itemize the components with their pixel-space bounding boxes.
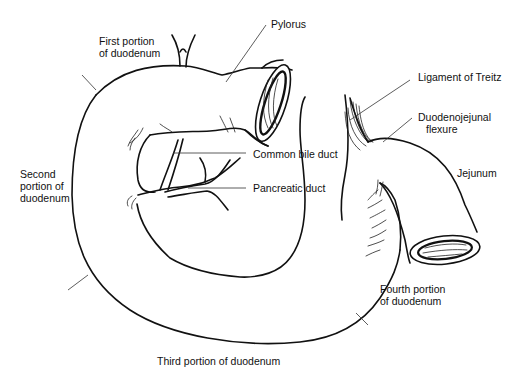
label-second-portion: Second portion of duodenum <box>20 168 70 204</box>
leader-first-portion <box>82 75 96 90</box>
leader-ligament <box>350 80 410 120</box>
vessel <box>172 35 180 66</box>
label-second-line2: portion of <box>20 180 70 192</box>
duodenum-outer-wall <box>96 66 262 95</box>
leader-second-portion <box>68 275 88 290</box>
label-common-bile-duct: Common bile duct <box>253 148 338 160</box>
leader-flexure <box>383 118 412 142</box>
label-pylorus: Pylorus <box>271 18 306 30</box>
duodenum-diagram: First portion of duodenum Pylorus Ligame… <box>0 0 516 371</box>
label-third-portion: Third portion of duodenum <box>157 355 280 367</box>
label-second-line3: duodenum <box>20 192 70 204</box>
label-first-portion-line2: of duodenum <box>99 47 160 59</box>
label-fourth-portion: Fourth portion of duodenum <box>380 283 445 307</box>
label-fourth-line1: Fourth portion <box>380 283 445 295</box>
leader-pylorus <box>226 25 266 82</box>
label-first-portion-line1: First portion <box>99 35 160 47</box>
label-first-portion: First portion of duodenum <box>99 35 160 59</box>
label-fourth-line2: of duodenum <box>380 295 445 307</box>
label-duodenojejunal-flexure: Duodenojejunal flexure <box>418 111 491 135</box>
label-pancreatic-duct: Pancreatic duct <box>253 182 325 194</box>
label-second-line1: Second <box>20 168 70 180</box>
label-flexure-line1: Duodenojejunal <box>418 111 491 123</box>
label-flexure-line2: flexure <box>418 123 491 135</box>
label-ligament-of-treitz: Ligament of Treitz <box>418 71 501 83</box>
pylorus-opening <box>248 61 297 145</box>
label-jejunum: Jejunum <box>457 167 497 179</box>
